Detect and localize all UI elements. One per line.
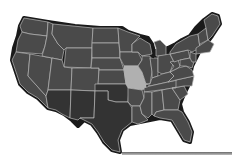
state-wyoming[interactable]	[64, 48, 92, 68]
state-south-dakota[interactable]	[92, 43, 120, 58]
state-oregon[interactable]	[16, 32, 47, 54]
state-arizona[interactable]	[46, 90, 71, 118]
state-florida[interactable]	[154, 110, 192, 142]
state-north-dakota[interactable]	[92, 28, 119, 43]
state-new-mexico[interactable]	[70, 90, 95, 120]
state-michigan[interactable]	[154, 40, 166, 56]
bottom-divider	[122, 152, 232, 155]
us-map-svg	[0, 0, 232, 161]
state-nebraska[interactable]	[91, 58, 124, 70]
state-kansas[interactable]	[98, 70, 126, 84]
state-iowa[interactable]	[120, 52, 142, 66]
state-new-jersey[interactable]	[190, 52, 196, 62]
us-map	[0, 0, 232, 161]
